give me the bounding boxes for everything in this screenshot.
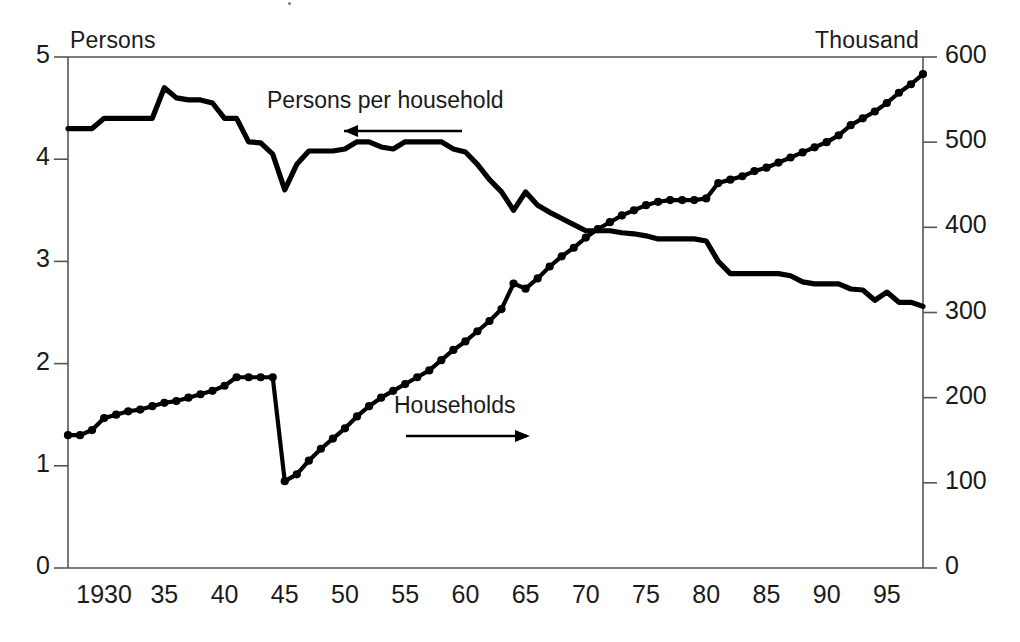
data-point-marker — [377, 394, 385, 402]
data-point-marker — [269, 373, 277, 381]
right-axis-ticks — [923, 57, 937, 568]
chart-canvas — [0, 0, 1020, 642]
data-point-marker — [570, 244, 578, 252]
data-point-marker — [811, 143, 819, 151]
data-point-marker — [124, 407, 132, 415]
data-point-marker — [714, 179, 722, 187]
data-point-marker — [666, 196, 674, 204]
data-point-marker — [365, 402, 373, 410]
data-point-marker — [196, 390, 204, 398]
data-point-marker — [594, 225, 602, 233]
data-point-marker — [148, 402, 156, 410]
data-point-marker — [726, 176, 734, 184]
data-point-marker — [353, 412, 361, 420]
left-axis-tick-label-0: 0 — [6, 551, 50, 580]
right-axis-tick-label-600: 600 — [945, 40, 1020, 69]
series-label-persons-per-household: Persons per household — [267, 87, 504, 114]
x-axis-tick-label-95: 95 — [842, 580, 932, 609]
data-series-group — [64, 70, 927, 485]
data-point-marker — [232, 373, 240, 381]
data-point-marker — [88, 426, 96, 434]
data-point-marker — [630, 206, 638, 214]
data-point-marker — [859, 114, 867, 122]
data-point-marker — [606, 218, 614, 226]
data-point-marker — [341, 424, 349, 432]
left-axis-unit-label: Persons — [70, 27, 156, 54]
data-point-marker — [305, 457, 313, 465]
left-axis-tick-label-4: 4 — [6, 142, 50, 171]
data-point-marker — [401, 380, 409, 388]
data-point-marker — [208, 387, 216, 395]
data-point-marker — [654, 198, 662, 206]
data-point-marker — [690, 196, 698, 204]
data-point-marker — [919, 70, 927, 78]
scan-artifact-speck — [288, 2, 291, 5]
data-point-marker — [618, 211, 626, 219]
data-point-marker — [172, 397, 180, 405]
arrow-left-icon — [344, 125, 462, 137]
data-point-marker — [883, 99, 891, 107]
data-point-marker — [220, 382, 228, 390]
right-axis-tick-label-500: 500 — [945, 125, 1020, 154]
data-point-marker — [546, 262, 554, 270]
data-point-marker — [871, 107, 879, 115]
data-point-marker — [497, 305, 505, 313]
data-point-marker — [425, 366, 433, 374]
data-point-marker — [786, 153, 794, 161]
data-point-marker — [100, 414, 108, 422]
data-point-marker — [160, 399, 168, 407]
data-point-marker — [509, 279, 517, 287]
data-point-marker — [738, 172, 746, 180]
data-point-marker — [64, 431, 72, 439]
data-point-marker — [76, 431, 84, 439]
data-point-marker — [449, 346, 457, 354]
left-axis-tick-label-2: 2 — [6, 347, 50, 376]
right-axis-tick-label-400: 400 — [945, 210, 1020, 239]
data-point-marker — [136, 405, 144, 413]
data-point-marker — [534, 274, 542, 282]
data-point-marker — [642, 201, 650, 209]
data-point-marker — [485, 317, 493, 325]
right-axis-tick-label-100: 100 — [945, 466, 1020, 495]
data-point-marker — [823, 138, 831, 146]
series-persons-per-household-line — [68, 88, 923, 307]
data-point-marker — [184, 394, 192, 402]
data-point-marker — [522, 285, 530, 293]
chart-figure: Persons Thousand Persons per household H… — [0, 0, 1020, 642]
data-point-marker — [437, 356, 445, 364]
data-point-marker — [473, 327, 481, 335]
arrow-right-icon — [406, 430, 530, 442]
data-point-marker — [317, 445, 325, 453]
data-point-marker — [582, 233, 590, 241]
data-point-marker — [835, 131, 843, 139]
right-axis-tick-label-200: 200 — [945, 381, 1020, 410]
data-point-marker — [678, 196, 686, 204]
data-point-marker — [329, 434, 337, 442]
left-axis-ticks — [54, 57, 68, 568]
data-point-marker — [895, 89, 903, 97]
right-axis-tick-label-300: 300 — [945, 296, 1020, 325]
left-axis-tick-label-3: 3 — [6, 244, 50, 273]
data-point-marker — [798, 148, 806, 156]
right-axis-unit-label: Thousand — [815, 27, 919, 54]
data-point-marker — [257, 373, 265, 381]
data-point-marker — [702, 194, 710, 202]
data-point-marker — [281, 477, 289, 485]
data-point-marker — [907, 80, 915, 88]
data-point-marker — [461, 337, 469, 345]
data-point-marker — [847, 121, 855, 129]
right-axis-tick-label-0: 0 — [945, 551, 1020, 580]
data-point-marker — [112, 411, 120, 419]
data-point-marker — [750, 167, 758, 175]
data-point-marker — [558, 252, 566, 260]
data-point-marker — [245, 373, 253, 381]
series-label-households: Households — [394, 392, 515, 419]
left-axis-tick-label-5: 5 — [6, 40, 50, 69]
data-point-marker — [413, 373, 421, 381]
data-point-marker — [293, 470, 301, 478]
data-point-marker — [762, 164, 770, 172]
left-axis-tick-label-1: 1 — [6, 449, 50, 478]
data-point-marker — [774, 159, 782, 167]
